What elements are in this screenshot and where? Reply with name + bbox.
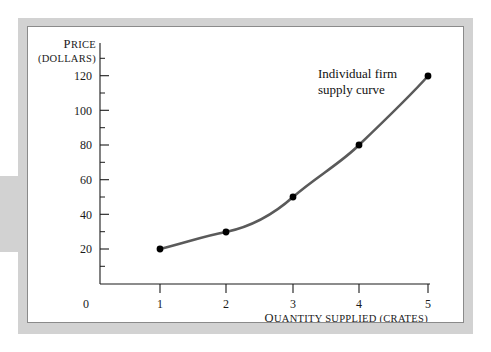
annotation-line-2: supply curve [318, 82, 385, 97]
data-point-q4-p80 [356, 142, 363, 149]
y-tick-label-20: 20 [80, 242, 92, 256]
annotation-line-1: Individual firm [318, 66, 397, 81]
y-axis-title-units: (DOLLARS) [38, 53, 96, 65]
data-point-q2-p30 [223, 229, 230, 236]
x-tick-label-3: 3 [290, 297, 296, 311]
x-axis-tick-labels: 1 2 3 4 5 [157, 297, 431, 311]
page-edge-tab [0, 176, 20, 252]
data-point-q3-p50 [290, 194, 297, 201]
y-tick-label-120: 120 [74, 69, 92, 83]
y-tick-label-80: 80 [80, 138, 92, 152]
y-axis-title-price: PRICE [64, 37, 96, 51]
data-point-q1-p20 [157, 246, 164, 253]
supply-curve-chart: 120 100 80 60 40 20 PRICE (DOLLARS) 1 [28, 27, 463, 322]
origin-label: 0 [83, 297, 89, 311]
x-tick-label-2: 2 [223, 297, 229, 311]
y-axis-tick-labels: 120 100 80 60 40 20 [74, 69, 92, 256]
x-tick-label-5: 5 [425, 297, 431, 311]
y-axis-minor-ticks [100, 58, 105, 266]
x-tick-label-1: 1 [157, 297, 163, 311]
x-axis-major-ticks [160, 284, 428, 293]
x-axis-title: QUANTITY SUPPLIED (CRATES) [265, 311, 429, 322]
supply-curve-line [160, 76, 428, 249]
chart-panel: 120 100 80 60 40 20 PRICE (DOLLARS) 1 [27, 26, 464, 323]
x-tick-label-4: 4 [356, 297, 362, 311]
curve-annotation: Individual firm supply curve [318, 66, 397, 97]
y-tick-label-100: 100 [74, 104, 92, 118]
y-axis-title: PRICE (DOLLARS) [38, 37, 96, 65]
y-tick-label-60: 60 [80, 173, 92, 187]
data-point-q5-p120 [425, 73, 432, 80]
data-point-markers [157, 73, 432, 253]
y-tick-label-40: 40 [80, 208, 92, 222]
